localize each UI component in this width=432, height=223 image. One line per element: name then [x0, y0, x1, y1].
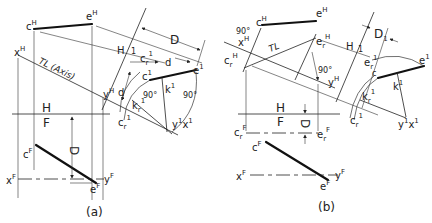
- caption-a: (a): [86, 205, 103, 219]
- descriptive-geometry-figure: cH eH xH TL (Axis) H 1 cr1 d c1 e1 yH d …: [0, 0, 432, 223]
- label-cF-a: cF: [23, 147, 33, 160]
- label-angle2-a: 90°: [183, 91, 197, 100]
- label-k1-a: k1: [165, 82, 175, 95]
- label-eF-b: eF: [320, 179, 330, 192]
- line-ce-front-view: [36, 145, 96, 183]
- label-eH: eH: [86, 9, 97, 22]
- label-TL-b: TL: [267, 41, 280, 54]
- label-xF-a: xF: [6, 173, 16, 186]
- label-1-upper-a: 1: [131, 47, 136, 56]
- label-cH: cH: [26, 19, 37, 32]
- label-crH-b: crH: [224, 52, 238, 69]
- label-c1-b: c: [372, 69, 376, 78]
- label-F-fold-a: F: [43, 116, 50, 130]
- label-crF-b: crF: [234, 124, 246, 141]
- label-e1-b: e1: [419, 53, 430, 66]
- label-F-fold-b: F: [277, 115, 284, 129]
- label-eF-a: eF: [90, 182, 100, 195]
- label-e1-a: e1: [193, 63, 204, 76]
- label-yH-b: yH: [328, 75, 339, 88]
- label-xF-b: xF: [236, 169, 246, 182]
- label-y1x1-b: y1x1: [398, 117, 419, 130]
- rotation-arc-e-b: [372, 56, 424, 66]
- line-ce-top-view: [34, 24, 92, 29]
- label-D-front-a: D: [67, 146, 81, 155]
- caption-b: (b): [318, 200, 335, 214]
- label-D1-b: D1: [374, 27, 388, 43]
- panel-b: 90° cH eH xH crH TL erH 90° yH H 1 D1 er…: [224, 6, 430, 214]
- line-ce-aux-view: [150, 70, 196, 80]
- dim-d-upper-r: [175, 58, 190, 62]
- label-yH-a: yH: [103, 87, 114, 100]
- label-d-lower: d: [118, 87, 124, 98]
- label-cr1-b: cr1: [350, 112, 363, 129]
- line-ce-top-view-b: [262, 21, 316, 25]
- label-cH-b: cH: [256, 15, 267, 28]
- label-y1x1-a: y1x1: [172, 117, 193, 130]
- projector-cr-aux: [252, 66, 378, 115]
- line-ce-aux-view-b: [378, 66, 424, 78]
- line-ce-front-view-b: [266, 142, 328, 180]
- label-H-upper-a: H: [117, 45, 125, 56]
- label-yF-b: yF: [335, 168, 345, 181]
- label-d-upper: d: [165, 57, 171, 68]
- label-D-front-b: D: [298, 119, 312, 128]
- label-H-upper-b: H: [346, 41, 354, 52]
- label-yF-a: yF: [104, 172, 114, 185]
- label-D-top-a: D: [170, 33, 179, 47]
- label-cr1-a: cr1: [140, 50, 153, 67]
- dim-D1-left: [362, 25, 370, 28]
- label-TL-axis: TL (Axis): [37, 56, 77, 82]
- label-cF-b: cF: [252, 140, 262, 153]
- panel-a: cH eH xH TL (Axis) H 1 cr1 d c1 e1 yH d …: [6, 8, 205, 219]
- dim-D1-right: [390, 39, 398, 42]
- label-erH-b: erH: [316, 33, 330, 50]
- label-k1-b: k1: [393, 79, 403, 92]
- label-H-fold-b: H: [276, 101, 285, 115]
- label-eH-b: eH: [316, 6, 327, 19]
- label-xH-b: xH: [238, 35, 249, 48]
- label-H-fold-a: H: [42, 101, 51, 115]
- label-angle-mid-b: 90°: [318, 66, 332, 75]
- label-erF-b: erF: [317, 126, 330, 143]
- label-xH: xH: [14, 45, 25, 58]
- label-angle1-a: 90°: [143, 91, 157, 100]
- label-1-upper-b: 1: [358, 45, 363, 54]
